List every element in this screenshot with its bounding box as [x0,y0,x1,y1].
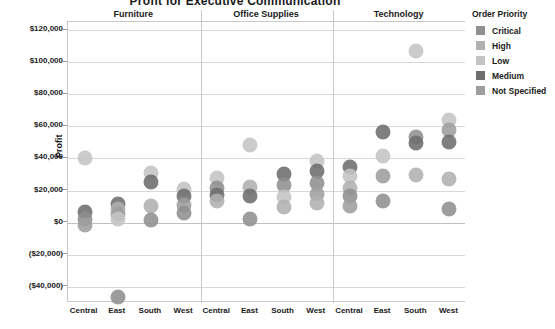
gridline [68,62,465,63]
data-point[interactable] [376,149,391,164]
gridline [68,158,465,159]
gridline [68,191,465,192]
data-point[interactable] [77,218,92,233]
data-point[interactable] [143,213,158,228]
y-axis-tick: ($20,000) [1,249,63,258]
data-point[interactable] [110,289,125,304]
data-point[interactable] [342,198,357,213]
x-axis-tick: South [404,306,427,315]
y-axis-tick: $20,000 [1,185,63,194]
data-point[interactable] [376,194,391,209]
x-axis-tick: Central [70,306,98,315]
data-point[interactable] [143,198,158,213]
legend-entries: CriticalHighLowMediumNot Specified [472,23,552,98]
legend-label: Low [492,56,509,66]
legend-label: High [492,41,511,51]
data-point[interactable] [276,199,291,214]
data-point[interactable] [409,43,424,58]
legend-item-high[interactable]: High [472,38,552,53]
data-point[interactable] [409,136,424,151]
x-axis-tick: Central [202,306,230,315]
data-point[interactable] [442,202,457,217]
panel-header-technology: Technology [332,9,465,19]
tick-mark [63,29,67,30]
panel-header-office-supplies: Office Supplies [200,9,333,19]
x-axis-tick: East [241,306,258,315]
x-axis-tick: West [306,306,325,315]
x-axis-tick: West [174,306,193,315]
legend-title: Order Priority [472,9,552,19]
gridline [68,255,465,256]
x-axis-tick: East [374,306,391,315]
data-point[interactable] [110,211,125,226]
tick-mark [63,221,67,222]
y-axis-tick: ($40,000) [1,281,63,290]
data-point[interactable] [409,168,424,183]
x-axis-tick: South [139,306,162,315]
data-point[interactable] [442,134,457,149]
gridline [68,223,465,224]
data-point[interactable] [177,206,192,221]
y-axis-tick: $60,000 [1,120,63,129]
plot-area: Profit [67,21,465,302]
legend-swatch [476,26,485,35]
tick-mark [63,157,67,158]
data-point[interactable] [210,194,225,209]
panel-divider [201,10,202,303]
legend-item-critical[interactable]: Critical [472,23,552,38]
legend-swatch [476,56,485,65]
tick-mark [63,285,67,286]
legend-item-medium[interactable]: Medium [472,68,552,83]
panel-header-furniture: Furniture [67,9,200,19]
data-point[interactable] [376,124,391,139]
x-axis-tick: Central [335,306,363,315]
profit-scatter-chart: Profit for Executive Communication Furni… [0,0,555,329]
gridline [68,30,465,31]
legend-label: Medium [492,71,524,81]
tick-mark [63,189,67,190]
tick-mark [63,253,67,254]
legend-label: Critical [492,26,521,36]
y-axis-tick: $0 [1,217,63,226]
x-axis-tick: South [271,306,294,315]
tick-mark [63,93,67,94]
x-axis-tick: West [439,306,458,315]
y-axis-tick: $120,000 [1,24,63,33]
gridline [68,94,465,95]
legend-swatch [476,41,485,50]
data-point[interactable] [309,196,324,211]
legend-swatch [476,86,485,95]
data-point[interactable] [243,211,258,226]
gridline [68,287,465,288]
data-point[interactable] [243,189,258,204]
legend-label: Not Specified [492,86,546,96]
y-axis-tick: $40,000 [1,152,63,161]
gridline [68,126,465,127]
tick-mark [63,61,67,62]
legend: Order Priority CriticalHighLowMediumNot … [472,9,552,98]
tick-mark [63,125,67,126]
chart-title: Profit for Executive Communication [0,0,470,8]
legend-item-not-specified[interactable]: Not Specified [472,83,552,98]
panel-divider [333,10,334,303]
x-axis-tick: East [108,306,125,315]
y-axis-tick: $100,000 [1,56,63,65]
data-point[interactable] [243,137,258,152]
data-point[interactable] [442,171,457,186]
y-axis-tick: $80,000 [1,88,63,97]
data-point[interactable] [143,174,158,189]
legend-item-low[interactable]: Low [472,53,552,68]
data-point[interactable] [376,169,391,184]
data-point[interactable] [77,151,92,166]
legend-swatch [476,71,485,80]
